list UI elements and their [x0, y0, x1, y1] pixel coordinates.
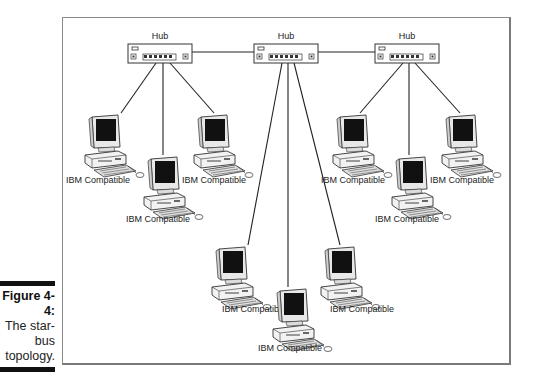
cable — [248, 63, 282, 245]
computer-label: IBM Compatible — [430, 175, 494, 185]
computer-label: IBM Compatible — [321, 175, 385, 185]
hub-1: Hub — [128, 31, 192, 63]
computer-icon — [194, 115, 253, 178]
hub-label: Hub — [152, 31, 169, 41]
computer-1: IBM Compatible — [66, 115, 144, 185]
hub-2: Hub — [254, 31, 318, 63]
cable — [170, 63, 214, 113]
computer-5: IBM Compatible — [375, 157, 451, 224]
computer-label: IBM Compatible — [182, 175, 246, 185]
hub-label: Hub — [399, 31, 416, 41]
cable — [360, 63, 403, 113]
computer-label: IBM Compatible — [330, 304, 394, 314]
computer-icon — [442, 115, 501, 178]
computer-2: IBM Compatible — [126, 157, 203, 224]
computer-icon — [392, 157, 451, 220]
hub-label: Hub — [278, 31, 295, 41]
computer-label: IBM Compatible — [375, 214, 439, 224]
computer-label: IBM Compatible — [66, 175, 130, 185]
computer-8: IBM Compatible — [258, 289, 332, 353]
computer-9: IBM Compatible — [321, 247, 394, 314]
cable — [121, 63, 156, 113]
hub-3: Hub — [375, 31, 439, 63]
computer-label: IBM Compatible — [258, 343, 322, 353]
computer-3: IBM Compatible — [182, 115, 253, 185]
computer-6: IBM Compatible — [430, 115, 501, 185]
computer-icon — [144, 157, 203, 220]
computer-icon — [333, 115, 392, 178]
cable — [415, 63, 460, 113]
computer-label: IBM Compatible — [222, 304, 286, 314]
computer-4: IBM Compatible — [321, 115, 392, 185]
computer-icon — [321, 247, 380, 310]
computer-icon — [85, 115, 144, 178]
computer-icon — [212, 247, 271, 310]
computer-7: IBM Compatible — [212, 247, 286, 314]
star-bus-diagram: Hub Hub Hub IBM Compatible IBM Compatibl… — [0, 0, 537, 386]
computer-label: IBM Compatible — [126, 214, 190, 224]
cable — [294, 63, 340, 245]
